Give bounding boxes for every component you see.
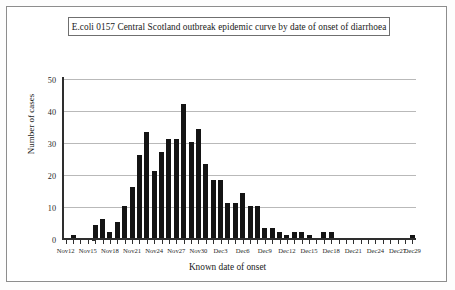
y-axis-tick-labels: 01020304050 [36, 78, 56, 240]
bar-slot [342, 78, 349, 238]
bar-slot [394, 78, 401, 238]
bar [240, 193, 245, 238]
x-tick-mark [405, 240, 406, 244]
x-tick-label: Dec18 [323, 247, 340, 254]
bar [292, 232, 297, 238]
x-tick-mark [154, 240, 155, 244]
x-tick-mark [73, 240, 74, 244]
bar-slot [269, 78, 276, 238]
bar [211, 180, 216, 238]
x-tick-label: Nov18 [101, 247, 119, 254]
x-tick-mark [280, 240, 281, 244]
x-tick-label: Dec21 [345, 247, 362, 254]
x-tick-mark [139, 240, 140, 244]
x-tick-mark [368, 240, 369, 244]
bar-slot [173, 78, 180, 238]
bar-slot [313, 78, 320, 238]
x-tick-label: Nov24 [145, 247, 163, 254]
x-tick-mark [66, 240, 67, 244]
bar-slot [180, 78, 187, 238]
bar-slot [69, 78, 76, 238]
bar [299, 232, 304, 238]
plot-area [62, 78, 416, 240]
x-tick-mark [80, 240, 81, 244]
x-tick-mark [147, 240, 148, 244]
bar [174, 139, 179, 238]
x-tick-mark [294, 240, 295, 244]
x-tick-label: Dec6 [236, 247, 250, 254]
x-tick-label: Dec12 [278, 247, 295, 254]
bar [100, 219, 105, 238]
bar-slot [114, 78, 121, 238]
x-axis-tick-marks [62, 240, 416, 246]
bar-slot [187, 78, 194, 238]
x-tick-mark [243, 240, 244, 244]
x-tick-mark [390, 240, 391, 244]
x-tick-label: Nov12 [57, 247, 75, 254]
bar-slot [151, 78, 158, 238]
bar-slot [158, 78, 165, 238]
x-tick-mark [398, 240, 399, 244]
bar [152, 171, 157, 238]
x-tick-mark [95, 240, 96, 244]
x-tick-mark [361, 240, 362, 244]
bar-slot [298, 78, 305, 238]
bar-slot [224, 78, 231, 238]
bar [262, 228, 267, 238]
x-tick-mark [162, 240, 163, 244]
bar [71, 235, 76, 238]
x-tick-mark [117, 240, 118, 244]
x-tick-mark [221, 240, 222, 244]
y-tick-label: 30 [48, 140, 56, 149]
bar-slot [121, 78, 128, 238]
bar [196, 129, 201, 238]
x-tick-mark [110, 240, 111, 244]
bar [159, 152, 164, 238]
x-tick-mark [184, 240, 185, 244]
x-tick-mark [316, 240, 317, 244]
y-axis-title: Number of cases [26, 64, 36, 184]
x-tick-mark [169, 240, 170, 244]
bar-slot [387, 78, 394, 238]
bar [277, 232, 282, 238]
plot-area-wrapper [62, 78, 416, 240]
bar-slot [195, 78, 202, 238]
x-tick-mark [228, 240, 229, 244]
bar-slot [232, 78, 239, 238]
bar-series [62, 78, 416, 238]
y-tick-label: 20 [48, 172, 56, 181]
bar-slot [261, 78, 268, 238]
x-tick-mark [176, 240, 177, 244]
bar [130, 187, 135, 238]
x-tick-mark [287, 240, 288, 244]
x-tick-mark [103, 240, 104, 244]
bar-slot [246, 78, 253, 238]
bar [255, 206, 260, 238]
x-tick-mark [88, 240, 89, 244]
bar-slot [350, 78, 357, 238]
bar-slot [136, 78, 143, 238]
x-tick-mark [383, 240, 384, 244]
bar-slot [328, 78, 335, 238]
x-axis-title: Known date of onset [0, 262, 455, 272]
bar [248, 206, 253, 238]
x-tick-label: Dec9 [258, 247, 272, 254]
bar-slot [283, 78, 290, 238]
bar-slot [276, 78, 283, 238]
x-tick-mark [353, 240, 354, 244]
y-tick-label: 40 [48, 108, 56, 117]
bar [410, 235, 415, 238]
bar [233, 203, 238, 238]
y-tick-label: 10 [48, 204, 56, 213]
bar [307, 235, 312, 238]
bar [218, 180, 223, 238]
x-axis-tick-labels: Nov12Nov15Nov18Nov21Nov24Nov27Nov30Dec3D… [62, 247, 416, 259]
bar-slot [379, 78, 386, 238]
bar-slot [217, 78, 224, 238]
x-tick-mark [235, 240, 236, 244]
x-tick-mark [257, 240, 258, 244]
chart-title-box: E.coli 0157 Central Scotland outbreak ep… [68, 17, 390, 36]
bar-slot [210, 78, 217, 238]
chart-page: E.coli 0157 Central Scotland outbreak ep… [0, 0, 455, 290]
bar [270, 228, 275, 238]
